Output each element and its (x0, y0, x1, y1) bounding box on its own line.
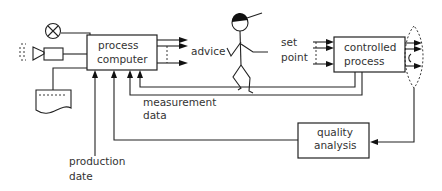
advice-arrows (157, 37, 188, 66)
production-label-1: production (69, 155, 125, 167)
process-output-arrows (405, 40, 422, 69)
measurement-data-lines (127, 70, 362, 95)
alarm-lamp-icon (46, 24, 61, 39)
measurement-label-1: measurement (143, 96, 216, 108)
process-control-diagram: process computer advice set point contr (0, 0, 442, 191)
advice-label: advice (191, 45, 225, 57)
quality-analysis-label-2: analysis (314, 139, 357, 151)
printout-icon (36, 90, 71, 113)
quality-feedback-line (114, 76, 298, 140)
loudspeaker-icon (19, 44, 63, 60)
sample-to-quality-line (378, 88, 414, 142)
set-point-label-1: set (281, 36, 297, 48)
quality-analysis-label-1: quality (317, 126, 353, 138)
set-point-arrows (313, 39, 334, 67)
set-point-label-2: point (281, 51, 308, 63)
process-computer-label-1: process (98, 39, 138, 51)
production-label-2: date (69, 170, 93, 182)
printer-connector (53, 68, 88, 90)
controlled-process-label-2: process (344, 55, 384, 67)
process-computer-label-2: computer (97, 53, 148, 65)
lamp-connector (61, 33, 90, 36)
measurement-label-2: data (143, 109, 167, 121)
controlled-process-label-1: controlled (344, 41, 396, 53)
product-flow-outline (405, 26, 423, 88)
operator-stick-figure-icon (227, 13, 268, 93)
